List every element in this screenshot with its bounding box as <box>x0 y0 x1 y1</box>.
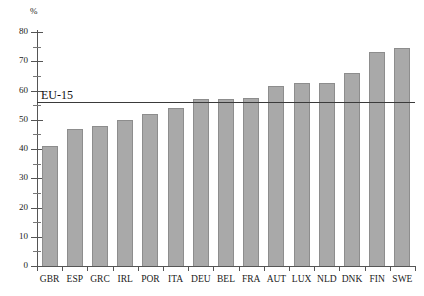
x-tick-11 <box>314 266 315 271</box>
x-label-SWE: SWE <box>390 274 415 284</box>
bar-chart: % 01020304050607080 EU-15 GBRESPGRCIRLPO… <box>0 0 424 296</box>
y-tick-label-70: 70 <box>6 56 28 65</box>
x-label-LUX: LUX <box>289 274 314 284</box>
x-label-POR: POR <box>138 274 163 284</box>
y-minor-tick-65 <box>33 76 41 77</box>
x-tick-2 <box>87 266 88 271</box>
x-tick-6 <box>188 266 189 271</box>
x-tick-4 <box>138 266 139 271</box>
bar-GRC <box>92 126 108 266</box>
y-minor-tick-75 <box>33 47 41 48</box>
x-tick-15 <box>415 266 416 271</box>
x-label-BEL: BEL <box>213 274 238 284</box>
x-tick-7 <box>213 266 214 271</box>
x-label-GBR: GBR <box>37 274 62 284</box>
x-tick-14 <box>390 266 391 271</box>
x-tick-9 <box>264 266 265 271</box>
bar-ITA <box>168 108 184 266</box>
x-tick-0 <box>37 266 38 271</box>
x-tick-10 <box>289 266 290 271</box>
x-tick-1 <box>62 266 63 271</box>
y-tick-label-30: 30 <box>6 173 28 182</box>
x-tick-5 <box>163 266 164 271</box>
bar-NLD <box>319 83 335 266</box>
x-label-ITA: ITA <box>163 274 188 284</box>
y-tick-label-20: 20 <box>6 203 28 212</box>
x-tick-12 <box>339 266 340 271</box>
x-label-ESP: ESP <box>62 274 87 284</box>
x-label-DNK: DNK <box>339 274 364 284</box>
bar-ESP <box>67 129 83 266</box>
x-label-AUT: AUT <box>264 274 289 284</box>
x-label-NLD: NLD <box>314 274 339 284</box>
x-axis-line <box>37 266 415 267</box>
reference-line-label: EU-15 <box>41 89 73 101</box>
bar-AUT <box>268 86 284 266</box>
eu-15-reference-line <box>37 102 415 103</box>
x-tick-3 <box>113 266 114 271</box>
plot-area: 01020304050607080 EU-15 GBRESPGRCIRLPORI… <box>0 0 424 296</box>
bar-FRA <box>243 98 259 266</box>
y-tick-70 <box>31 61 43 62</box>
bar-GBR <box>42 146 58 266</box>
bar-LUX <box>294 83 310 266</box>
x-label-FRA: FRA <box>239 274 264 284</box>
x-label-IRL: IRL <box>113 274 138 284</box>
bar-SWE <box>394 48 410 266</box>
y-minor-tick-5 <box>33 251 41 252</box>
bar-IRL <box>117 120 133 266</box>
y-tick-80 <box>31 32 43 33</box>
y-minor-tick-25 <box>33 193 41 194</box>
bar-POR <box>142 114 158 266</box>
y-tick-label-60: 60 <box>6 86 28 95</box>
x-label-GRC: GRC <box>87 274 112 284</box>
x-label-FIN: FIN <box>365 274 390 284</box>
y-tick-label-80: 80 <box>6 27 28 36</box>
x-tick-8 <box>239 266 240 271</box>
y-tick-label-10: 10 <box>6 232 28 241</box>
y-tick-label-50: 50 <box>6 115 28 124</box>
bar-FIN <box>369 52 385 266</box>
bar-DEU <box>193 99 209 266</box>
y-minor-tick-35 <box>33 164 41 165</box>
x-label-DEU: DEU <box>188 274 213 284</box>
y-minor-tick-15 <box>33 222 41 223</box>
y-tick-50 <box>31 120 43 121</box>
y-tick-label-40: 40 <box>6 144 28 153</box>
y-minor-tick-55 <box>33 105 41 106</box>
y-minor-tick-45 <box>33 134 41 135</box>
y-tick-label-0: 0 <box>6 261 28 270</box>
x-tick-13 <box>365 266 366 271</box>
bar-BEL <box>218 99 234 266</box>
